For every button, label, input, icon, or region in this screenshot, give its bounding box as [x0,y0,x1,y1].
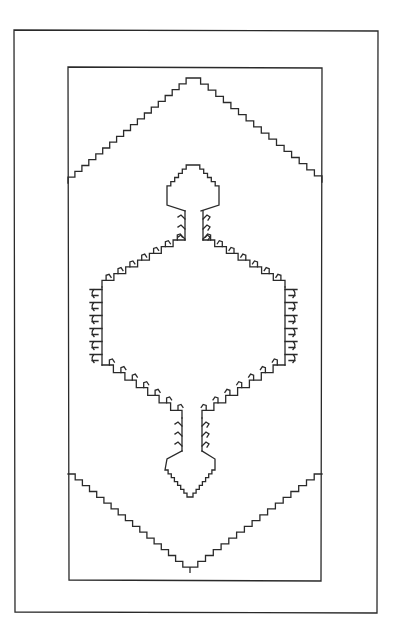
step-hook [272,359,277,365]
stem-hook [178,215,185,219]
stem-hook [175,422,182,426]
top-arrowhead [167,165,219,211]
step-hook [167,397,172,403]
step-hook [118,268,123,274]
step-hook [237,382,242,388]
step-hook [106,274,111,280]
side-hook-left [90,355,102,363]
step-hook [132,374,137,380]
side-hook-left [90,303,102,311]
step-hook [165,241,170,247]
top-stepped-triangle [68,78,322,183]
side-hook-right [285,303,297,311]
step-hook [109,359,114,365]
step-hook [217,241,222,247]
step-hook [154,247,159,253]
step-hook [253,261,258,267]
side-hook-right [285,342,297,350]
side-hook-left [90,290,102,298]
rug-pattern-svg [0,0,401,644]
stem-hook [202,432,209,437]
side-hook-left [90,329,102,337]
step-hook [155,389,160,395]
step-hook [142,254,147,260]
stem-hook [203,225,210,230]
upper-right-steps [203,240,285,287]
side-hook-right [285,329,297,337]
step-hook [121,367,126,373]
stem-hook [203,215,210,220]
bottom-stepped-triangle [68,474,322,573]
stem-hook [202,442,209,447]
inner-border [68,67,322,581]
inner-frame [68,67,322,581]
side-hook-left [90,342,102,350]
stem-hook [202,422,209,427]
step-hook [144,382,149,388]
central-medallion [90,165,297,497]
upper-left-steps [102,240,185,287]
step-hook [264,268,269,274]
side-hook-right [285,290,297,298]
side-hook-right [285,355,297,363]
step-hook [178,404,183,410]
bottom-triangle-outline [68,474,322,573]
stem-hook [178,225,185,229]
step-hook [225,389,230,395]
lower-right-steps [202,365,285,418]
stem-hook [175,432,182,436]
step-hook [213,397,218,403]
step-hook [201,404,206,410]
step-hook [260,367,265,373]
top-triangle-outline [68,78,322,183]
step-hook [241,254,246,260]
rug-drawing [0,0,401,644]
lower-left-steps [102,365,182,418]
step-hook [130,261,135,267]
step-hook [229,247,234,253]
step-hook [276,274,281,280]
side-hook-right [285,316,297,324]
stem-hook [175,442,182,446]
step-hook [249,374,254,380]
side-hook-left [90,316,102,324]
bottom-arrowhead [165,451,215,497]
